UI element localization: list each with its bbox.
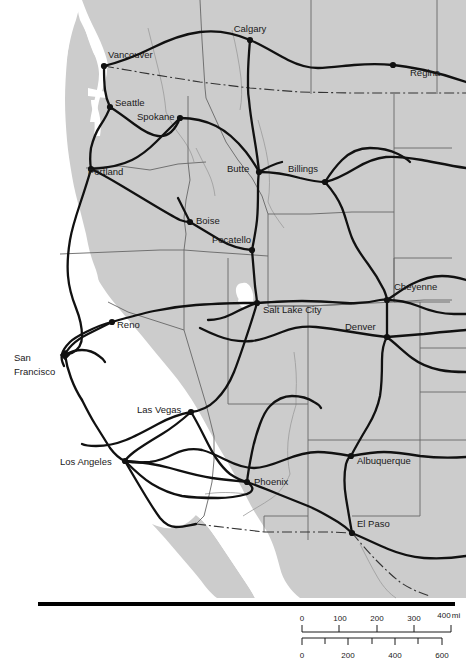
city-marker-seattle[interactable]: [107, 104, 113, 110]
city-marker-vancouver[interactable]: [101, 63, 107, 69]
city-marker-pocatello[interactable]: [249, 247, 255, 253]
map-page: CalgaryReginaVancouverSeattleSpokanePort…: [0, 0, 466, 666]
city-label-pocatello: Pocatello: [212, 234, 251, 245]
city-label-albuquerque: Albuquerque: [357, 455, 411, 466]
city-marker-denver[interactable]: [384, 334, 390, 340]
city-label-calgary: Calgary: [234, 23, 267, 34]
city-label-los-angeles: Los Angeles: [60, 456, 112, 467]
city-marker-butte[interactable]: [256, 169, 262, 175]
scale-mi-label-300: 300: [407, 614, 421, 623]
city-label-portland: Portland: [88, 166, 123, 177]
scale-mi-label-200: 200: [370, 614, 384, 623]
scale-mi-ruler: [302, 625, 451, 632]
city-label-vancouver: Vancouver: [108, 49, 153, 60]
city-marker-salt-lake-city[interactable]: [254, 300, 260, 306]
scale-bar: 0 100 200 300 400 mi 0 200 400: [300, 611, 461, 660]
city-label-san-francisco-line2: Francisco: [14, 366, 55, 377]
city-marker-regina[interactable]: [390, 62, 396, 68]
scale-mi-label-0: 0: [300, 614, 305, 623]
city-label-salt-lake-city: Salt Lake City: [263, 304, 322, 315]
scale-mi-label-400: 400: [437, 611, 451, 620]
scale-km-label-400: 400: [388, 651, 402, 660]
city-label-cheyenne: Cheyenne: [394, 281, 437, 292]
city-label-denver: Denver: [345, 321, 376, 332]
scale-km-ruler: [302, 638, 442, 645]
city-marker-albuquerque[interactable]: [348, 453, 354, 459]
city-label-san-francisco: San: [14, 352, 31, 363]
highway-sf-bay-loop: [65, 350, 105, 362]
city-marker-calgary[interactable]: [247, 37, 253, 43]
city-label-spokane: Spokane: [137, 111, 175, 122]
city-label-seattle: Seattle: [115, 97, 145, 108]
city-label-phoenix: Phoenix: [254, 476, 289, 487]
scale-km-label-600: 600: [435, 651, 449, 660]
city-label-reno: Reno: [117, 319, 140, 330]
city-label-billings: Billings: [288, 163, 318, 174]
city-label-boise: Boise: [196, 215, 220, 226]
landmass-layer: [0, 0, 466, 598]
city-marker-los-angeles[interactable]: [122, 458, 128, 464]
city-marker-el-paso[interactable]: [349, 530, 355, 536]
city-marker-las-vegas[interactable]: [188, 409, 194, 415]
bottom-divider-rule: [38, 602, 455, 606]
scale-mi-unit: mi: [452, 611, 461, 620]
map-canvas[interactable]: CalgaryReginaVancouverSeattleSpokanePort…: [0, 0, 466, 666]
city-label-el-paso: El Paso: [357, 518, 390, 529]
city-marker-spokane[interactable]: [177, 115, 183, 121]
city-label-regina: Regina: [410, 67, 441, 78]
city-label-las-vegas: Las Vegas: [137, 404, 182, 415]
city-marker-boise[interactable]: [187, 219, 193, 225]
scale-km-label-200: 200: [341, 651, 355, 660]
river-gila: [205, 493, 246, 495]
city-label-butte: Butte: [227, 163, 249, 174]
city-marker-phoenix[interactable]: [244, 479, 250, 485]
scale-mi-label-100: 100: [333, 614, 347, 623]
city-marker-reno[interactable]: [109, 319, 115, 325]
scale-km-label-0: 0: [300, 651, 305, 660]
city-marker-billings[interactable]: [322, 179, 328, 185]
city-marker-cheyenne[interactable]: [384, 297, 390, 303]
